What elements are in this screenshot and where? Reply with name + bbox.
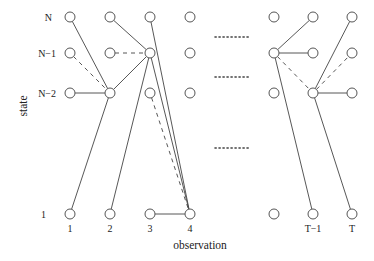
- obs-label-4: 4: [188, 223, 193, 234]
- transition-edge-solid: [72, 21, 107, 88]
- state-node-c3-r0: [185, 12, 195, 22]
- state-label-1: 1: [41, 209, 46, 220]
- state-node-c2-r2: [145, 88, 155, 98]
- obs-label-3: 3: [148, 223, 153, 234]
- y-axis-label: state: [17, 95, 29, 116]
- transition-edge-solid: [114, 20, 147, 49]
- state-node-c2-r1: [145, 48, 155, 58]
- state-node-c3-r1: [185, 48, 195, 58]
- state-node-c6-r0: [347, 12, 357, 22]
- state-node-c5-r1: [308, 48, 318, 58]
- transition-edge-solid: [151, 58, 189, 209]
- transition-edge-solid: [275, 58, 312, 209]
- state-node-c2-r0: [145, 12, 155, 22]
- state-node-c5-r2: [308, 88, 318, 98]
- obs-label-T-minus-1: T−1: [305, 223, 322, 234]
- state-label-N-minus-2: N−2: [38, 88, 56, 99]
- state-node-c1-r3: [105, 209, 115, 219]
- transition-edge-dashed: [277, 57, 309, 90]
- state-label-N: N: [45, 12, 52, 23]
- state-label-N-minus-1: N−1: [38, 48, 56, 59]
- state-node-c1-r0: [105, 12, 115, 22]
- state-node-c0-r3: [65, 209, 75, 219]
- transition-edge-solid: [278, 20, 310, 49]
- state-node-c3-r2: [185, 88, 195, 98]
- state-node-c6-r1: [347, 48, 357, 58]
- state-node-c4-r1: [269, 48, 279, 58]
- state-node-c0-r1: [65, 48, 75, 58]
- viterbi-trellis-diagram: state N N−1 N−2 1 1 2 3 4 T−1 T observat…: [0, 0, 374, 261]
- state-node-c2-r3: [145, 209, 155, 219]
- state-node-c0-r2: [65, 88, 75, 98]
- state-node-c0-r0: [65, 12, 75, 22]
- transition-edge-solid: [114, 57, 147, 90]
- transition-edge-dashed: [316, 57, 348, 90]
- obs-label-1: 1: [68, 223, 73, 234]
- transition-edge-dashed: [74, 57, 107, 90]
- state-node-c4-r3: [269, 209, 279, 219]
- transition-edge-solid: [151, 22, 189, 209]
- state-node-c3-r3: [185, 209, 195, 219]
- ellipsis-dots: [215, 37, 251, 148]
- state-nodes: [65, 12, 357, 219]
- x-axis-label: observation: [173, 239, 227, 251]
- obs-label-T: T: [349, 223, 355, 234]
- transition-edge-solid: [111, 58, 149, 209]
- state-node-c1-r1: [105, 48, 115, 58]
- state-node-c4-r2: [269, 88, 279, 98]
- obs-label-2: 2: [108, 223, 113, 234]
- state-node-c6-r2: [347, 88, 357, 98]
- transition-edge-solid: [315, 98, 351, 209]
- state-node-c5-r3: [308, 209, 318, 219]
- transition-edge-solid: [72, 98, 109, 210]
- state-node-c6-r3: [347, 209, 357, 219]
- state-node-c4-r0: [269, 12, 279, 22]
- transition-edge-solid: [315, 21, 349, 88]
- state-node-c5-r0: [308, 12, 318, 22]
- state-node-c1-r2: [105, 88, 115, 98]
